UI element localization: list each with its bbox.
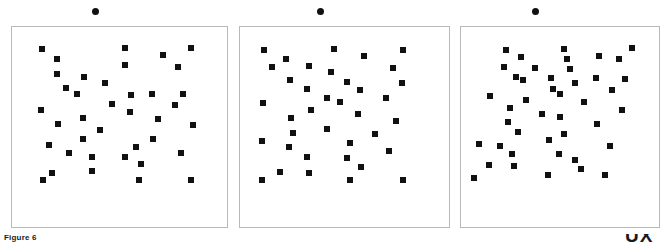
scatter-point xyxy=(578,166,584,172)
scatter-point xyxy=(609,87,615,93)
scatter-point xyxy=(277,169,283,175)
scatter-point xyxy=(486,162,492,168)
scatter-point xyxy=(63,85,69,91)
scatter-point xyxy=(188,45,194,51)
scatter-point xyxy=(386,148,392,154)
scatter-point xyxy=(557,91,563,97)
scatter-point xyxy=(80,115,86,121)
corner-watermark-text: UX xyxy=(625,234,653,246)
scatter-panel-3[interactable] xyxy=(460,26,660,228)
scatter-point xyxy=(261,47,267,53)
scatter-point xyxy=(622,76,628,82)
scatter-point xyxy=(290,130,296,136)
figure-caption: Figure 6 xyxy=(4,233,37,242)
scatter-point xyxy=(89,154,95,160)
scatter-point xyxy=(55,121,61,127)
panel-header-dot xyxy=(317,8,324,15)
scatter-point xyxy=(122,62,128,68)
scatter-point xyxy=(532,65,538,71)
scatter-point xyxy=(109,101,115,107)
scatter-point xyxy=(629,45,635,51)
scatter-point xyxy=(513,74,519,80)
scatter-point xyxy=(523,97,529,103)
scatter-point xyxy=(304,154,310,160)
scatter-point xyxy=(308,107,314,113)
scatter-point xyxy=(306,170,312,176)
panel-header-dot xyxy=(92,8,99,15)
scatter-point xyxy=(564,56,570,62)
scatter-point xyxy=(97,127,103,133)
scatter-point xyxy=(515,129,521,135)
scatter-point xyxy=(355,111,361,117)
scatter-point xyxy=(138,161,144,167)
scatter-point xyxy=(358,164,364,170)
scatter-point xyxy=(572,80,578,86)
scatter-point xyxy=(383,95,389,101)
scatter-point xyxy=(283,56,289,62)
scatter-point xyxy=(324,95,330,101)
scatter-panel-2[interactable] xyxy=(239,26,450,228)
scatter-point xyxy=(556,151,562,157)
scatter-point xyxy=(539,111,545,117)
scatter-point xyxy=(190,122,196,128)
scatter-point xyxy=(175,64,181,70)
scatter-point xyxy=(572,157,578,163)
scatter-point xyxy=(567,66,573,72)
scatter-point xyxy=(561,46,567,52)
scatter-point xyxy=(81,74,87,80)
scatter-point xyxy=(128,92,134,98)
scatter-point xyxy=(66,150,72,156)
scatter-point xyxy=(260,100,266,106)
scatter-point xyxy=(127,109,133,115)
scatter-point xyxy=(136,177,142,183)
scatter-point xyxy=(399,80,405,86)
scatter-point xyxy=(390,65,396,71)
scatter-point xyxy=(507,105,513,111)
scatter-point xyxy=(546,137,552,143)
scatter-point xyxy=(304,86,310,92)
scatter-point xyxy=(102,80,108,86)
scatter-point xyxy=(476,141,482,147)
scatter-point xyxy=(505,119,511,125)
scatter-point xyxy=(155,116,161,122)
scatter-point xyxy=(328,69,334,75)
scatter-point xyxy=(593,75,599,81)
scatter-point xyxy=(511,163,517,169)
scatter-panel-1[interactable] xyxy=(11,26,228,228)
scatter-point xyxy=(337,99,343,105)
scatter-point xyxy=(269,64,275,70)
corner-watermark: UX xyxy=(625,234,667,246)
scatter-point xyxy=(188,177,194,183)
scatter-point xyxy=(306,63,312,69)
scatter-point xyxy=(357,87,363,93)
scatter-point xyxy=(89,168,95,174)
scatter-point xyxy=(361,53,367,59)
scatter-point xyxy=(501,64,507,70)
panel-header-dot xyxy=(532,8,539,15)
scatter-point xyxy=(54,56,60,62)
scatter-point xyxy=(400,47,406,53)
scatter-point xyxy=(393,118,399,124)
scatter-point xyxy=(40,177,46,183)
scatter-point xyxy=(259,177,265,183)
scatter-point xyxy=(471,175,477,181)
scatter-point xyxy=(133,144,139,150)
scatter-point xyxy=(400,177,406,183)
scatter-point xyxy=(39,46,45,52)
scatter-point xyxy=(259,138,265,144)
scatter-point xyxy=(180,91,186,97)
scatter-point xyxy=(594,121,600,127)
scatter-point xyxy=(46,142,52,148)
scatter-point xyxy=(372,131,378,137)
scatter-point xyxy=(550,86,556,92)
scatter-point xyxy=(344,79,350,85)
scatter-point xyxy=(518,54,524,60)
scatter-point xyxy=(160,52,166,58)
scatter-point xyxy=(80,136,86,142)
scatter-point xyxy=(561,131,567,137)
scatter-point xyxy=(557,114,563,120)
scatter-point xyxy=(122,45,128,51)
scatter-point xyxy=(324,126,330,132)
scatter-point xyxy=(545,172,551,178)
scatter-point xyxy=(331,46,337,52)
